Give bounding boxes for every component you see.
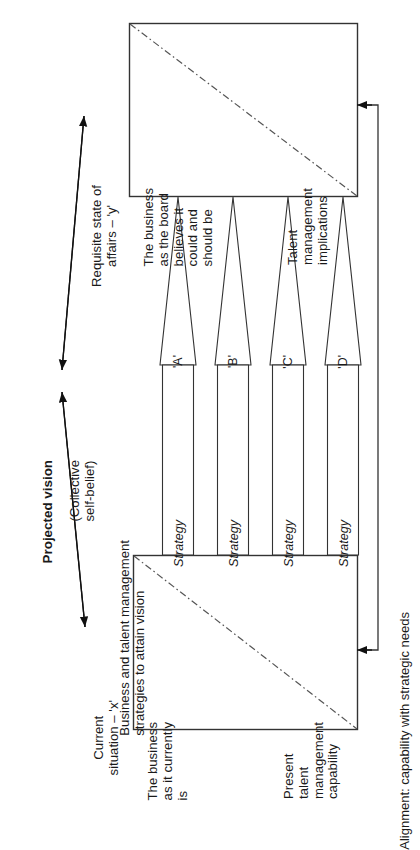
arrow-from-requisite-state: [62, 116, 84, 370]
alignment-bracket-line: [364, 105, 378, 650]
strategy-letter-D: 'D': [337, 355, 351, 369]
middle-strategies-label: Business and talent management strategie…: [118, 540, 148, 736]
strategy-letter-B: 'B': [227, 355, 241, 368]
top-box-secondary-text: Talent management implications: [286, 188, 330, 265]
bottom-box-secondary-text: Present talent management capability: [282, 722, 341, 799]
requisite-state-label: Requisite state of affairs – 'y': [90, 185, 120, 287]
projected-vision-title: Projected vision: [40, 460, 55, 563]
strategy-label-A: Strategy: [172, 520, 186, 567]
strategy-letter-A: 'A': [172, 355, 186, 368]
strategy-label-B: Strategy: [227, 520, 241, 567]
strategy-triangle-D: [325, 197, 361, 365]
top-box-primary-text: The business as the board believes it co…: [142, 188, 216, 266]
projected-vision-subtitle: (Collective self-belief): [68, 460, 98, 522]
strategy-funnel-B: [215, 197, 251, 555]
strategy-label-D: Strategy: [337, 520, 351, 567]
strategy-funnel-D: [325, 197, 361, 555]
strategy-letter-C: 'C': [282, 355, 296, 369]
bottom-box-primary-text: The business as it currently is: [146, 722, 190, 800]
strategy-triangle-B: [215, 197, 251, 365]
alignment-label: Alignment: capability with strategic nee…: [398, 612, 413, 850]
strategy-label-C: Strategy: [282, 520, 296, 567]
